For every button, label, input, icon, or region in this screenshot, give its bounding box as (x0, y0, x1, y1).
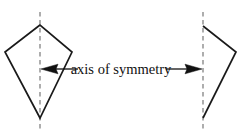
axis-of-symmetry-label: axis of symmetry (71, 61, 172, 77)
right-arrow-head-icon (185, 64, 202, 74)
left-arrow-head-icon (41, 64, 58, 74)
left-kite-shape (5, 25, 72, 118)
figure-canvas: axis of symmetry (0, 0, 243, 138)
axis-of-symmetry-figure: axis of symmetry (0, 0, 243, 138)
right-half-kite-shape (203, 26, 236, 118)
